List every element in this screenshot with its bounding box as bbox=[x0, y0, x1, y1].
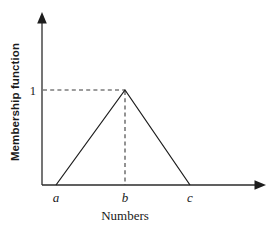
x-tick-label-c: c bbox=[187, 190, 193, 205]
membership-function-chart: 1 a b c Numbers Membership function bbox=[0, 0, 278, 230]
x-tick-label-b: b bbox=[122, 190, 129, 205]
x-axis-arrow-icon bbox=[255, 180, 267, 189]
y-tick-label-1: 1 bbox=[30, 84, 36, 98]
triangular-membership-curve bbox=[56, 90, 190, 185]
figure-container: 1 a b c Numbers Membership function bbox=[0, 0, 278, 230]
y-axis-title: Membership function bbox=[9, 43, 21, 161]
y-axis-arrow-icon bbox=[37, 12, 47, 24]
x-axis-title: Numbers bbox=[101, 208, 149, 223]
x-tick-label-a: a bbox=[53, 190, 60, 205]
